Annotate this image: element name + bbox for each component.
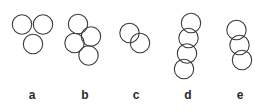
group-a-label: a [29,89,36,101]
circle [33,15,52,34]
group-d-label: d [184,89,191,101]
group-b-label: b [81,89,88,101]
group-c-label: c [133,89,140,101]
circle [79,46,98,65]
group-a-circles [12,15,52,54]
group-e-label: e [237,89,244,101]
circle [68,14,87,33]
group-b-circles [65,14,101,65]
circle [130,33,149,52]
circle-arrangement-diagram [0,0,255,112]
group-d-circles [174,13,200,78]
circle [120,23,139,42]
circle [227,20,246,39]
circle [232,50,251,69]
group-e-circles [227,20,252,69]
circle [12,15,31,34]
circle [23,34,42,53]
group-c-circles [120,23,150,52]
